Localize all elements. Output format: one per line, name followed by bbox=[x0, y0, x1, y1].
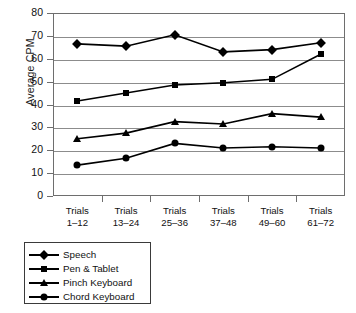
legend-item-label: Pinch Keyboard bbox=[59, 277, 132, 288]
data-point-marker bbox=[220, 80, 226, 86]
data-point-marker bbox=[318, 51, 324, 57]
data-point-marker bbox=[267, 45, 277, 55]
data-point-marker bbox=[122, 129, 130, 136]
legend-square-icon bbox=[29, 262, 59, 274]
data-point-marker bbox=[171, 118, 179, 125]
data-point-marker bbox=[123, 155, 130, 162]
data-point-marker bbox=[219, 120, 227, 127]
data-point-marker bbox=[317, 113, 325, 120]
data-point-marker bbox=[268, 110, 276, 117]
legend-item-label: Pen & Tablet bbox=[59, 263, 118, 274]
legend-item-label: Speech bbox=[59, 249, 96, 260]
data-point-marker bbox=[317, 144, 324, 151]
data-point-marker bbox=[72, 39, 82, 49]
data-point-marker bbox=[220, 144, 227, 151]
data-point-marker bbox=[218, 47, 228, 57]
chart-figure: Average CPM 01020304050607080 Trials1–12… bbox=[0, 0, 356, 313]
data-point-marker bbox=[171, 140, 178, 147]
legend-circle-icon bbox=[29, 290, 59, 302]
data-point-marker bbox=[172, 82, 178, 88]
legend-item[interactable]: Speech bbox=[25, 247, 150, 261]
data-point-marker bbox=[123, 90, 129, 96]
chart-legend: SpeechPen & TabletPinch KeyboardChord Ke… bbox=[24, 242, 151, 304]
data-point-marker bbox=[121, 41, 131, 51]
data-point-marker bbox=[269, 76, 275, 82]
legend-diamond-icon bbox=[29, 248, 59, 260]
legend-triangle-icon bbox=[29, 276, 59, 288]
legend-item-label: Chord Keyboard bbox=[59, 291, 134, 302]
data-point-marker bbox=[269, 143, 276, 150]
data-point-marker bbox=[316, 38, 326, 48]
data-point-marker bbox=[74, 162, 81, 169]
data-point-marker bbox=[73, 135, 81, 142]
legend-item[interactable]: Pinch Keyboard bbox=[25, 275, 150, 289]
legend-item[interactable]: Pen & Tablet bbox=[25, 261, 150, 275]
data-point-marker bbox=[170, 30, 180, 40]
data-point-marker bbox=[74, 98, 80, 104]
legend-item[interactable]: Chord Keyboard bbox=[25, 289, 150, 303]
